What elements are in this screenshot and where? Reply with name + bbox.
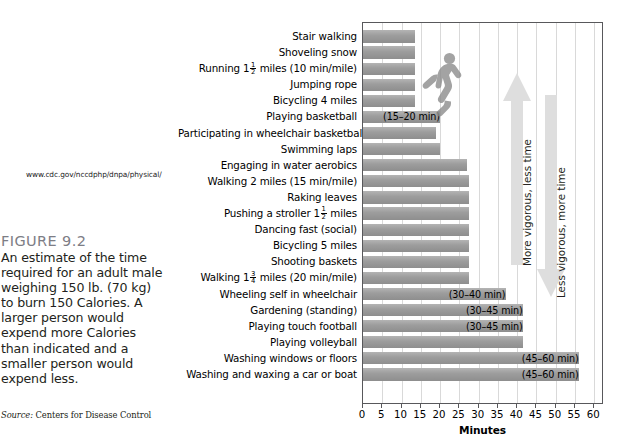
category-label: Playing basketball	[178, 108, 361, 124]
axis-tick-label: 45	[529, 409, 542, 420]
x-axis: 051015202530354045505560 Minutes	[362, 404, 603, 444]
bar-row	[363, 126, 602, 142]
source-text: Centers for Disease Control	[33, 410, 151, 420]
axis-tick-label: 20	[433, 409, 446, 420]
bar-value-note: (45–60 min)	[522, 352, 579, 365]
bar	[363, 79, 415, 91]
bar-value-note: (45–60 min)	[522, 368, 579, 381]
category-label: Walking 134 miles (20 min/mile)	[178, 269, 361, 285]
category-label: Wheeling self in wheelchair	[178, 286, 361, 302]
category-label: Dancing fast (social)	[178, 221, 361, 237]
plot-area: (15–20 min)(30–40 min)(30–45 min)(30–45 …	[362, 22, 603, 404]
bar-row: (15–20 min)	[363, 109, 602, 125]
category-label: Participating in wheelchair basketball	[178, 125, 361, 141]
cdc-url-text: www.cdc.gov/nccdphp/dnpa/physical/	[26, 170, 176, 179]
axis-tick	[478, 404, 479, 408]
axis-tick-label: 25	[452, 409, 465, 420]
bar	[363, 336, 523, 348]
category-label: Jumping rope	[178, 76, 361, 92]
bar-row: (30–45 min)	[363, 303, 602, 319]
bar-row	[363, 335, 602, 351]
bar-value-note: (30–40 min)	[449, 288, 506, 301]
axis-tick	[381, 404, 382, 408]
axis-tick	[535, 404, 536, 408]
axis-tick-label: 40	[510, 409, 523, 420]
axis-tick	[420, 404, 421, 408]
category-label: Washing and waxing a car or boat	[178, 366, 361, 382]
bar-row	[363, 45, 602, 61]
category-label: Washing windows or floors	[178, 350, 361, 366]
bar-value-note: (30–45 min)	[466, 304, 523, 317]
axis-tick	[555, 404, 556, 408]
category-label: Gardening (standing)	[178, 302, 361, 318]
axis-tick	[574, 404, 575, 408]
bar	[363, 127, 436, 139]
axis-tick-label: 5	[378, 409, 384, 420]
axis-tick	[362, 404, 363, 408]
category-label: Pushing a stroller 112 miles	[178, 205, 361, 221]
axis-tick-label: 15	[413, 409, 426, 420]
figure-number: FIGURE 9.2	[1, 233, 86, 249]
category-label: Playing touch football	[178, 318, 361, 334]
more-vigorous-label: More vigorous, less time	[521, 139, 533, 266]
category-label: Swimming laps	[178, 141, 361, 157]
category-label: Raking leaves	[178, 189, 361, 205]
figure-caption-column: www.cdc.gov/nccdphp/dnpa/physical/ FIGUR…	[0, 0, 178, 448]
bar-value-note: (30–45 min)	[466, 320, 523, 333]
axis-tick	[497, 404, 498, 408]
axis-tick-label: 30	[471, 409, 484, 420]
bar	[363, 191, 469, 203]
bar-row	[363, 61, 602, 77]
axis-tick-label: 50	[548, 409, 561, 420]
figure-source: Source: Centers for Disease Control	[1, 410, 177, 420]
running-person-icon	[420, 51, 468, 117]
category-label: Bicycling 5 miles	[178, 237, 361, 253]
source-label: Source:	[1, 410, 33, 420]
bar-row	[363, 93, 602, 109]
bar	[363, 95, 415, 107]
bar	[363, 207, 469, 219]
axis-tick-label: 60	[587, 409, 600, 420]
axis-tick	[516, 404, 517, 408]
bar-row	[363, 142, 602, 158]
bar	[363, 30, 415, 42]
bar	[363, 175, 469, 187]
axis-tick-label: 10	[394, 409, 407, 420]
category-label: Walking 2 miles (15 min/mile)	[178, 173, 361, 189]
category-label: Stair walking	[178, 28, 361, 44]
bar-row: (30–45 min)	[363, 319, 602, 335]
bar-row	[363, 29, 602, 45]
category-label: Playing volleyball	[178, 334, 361, 350]
axis-tick	[593, 404, 594, 408]
category-axis-labels: Stair walkingShoveling snowRunning 112 m…	[178, 28, 361, 382]
bar	[363, 46, 415, 58]
bar-row: (45–60 min)	[363, 351, 602, 367]
bar	[363, 143, 440, 155]
bar	[363, 224, 469, 236]
bar-row: (45–60 min)	[363, 367, 602, 383]
bar	[363, 159, 467, 171]
bar	[363, 240, 469, 252]
category-label: Engaging in water aerobics	[178, 157, 361, 173]
category-label: Bicycling 4 miles	[178, 92, 361, 108]
axis-tick-label: 35	[490, 409, 503, 420]
category-label: Running 112 miles (10 min/mile)	[178, 60, 361, 76]
axis-tick	[401, 404, 402, 408]
axis-tick	[439, 404, 440, 408]
category-label: Shooting baskets	[178, 253, 361, 269]
bar-chart: Stair walkingShoveling snowRunning 112 m…	[178, 22, 618, 442]
less-vigorous-label: Less vigorous, more time	[555, 167, 567, 298]
category-label: Shoveling snow	[178, 44, 361, 60]
bar	[363, 256, 469, 268]
bar	[363, 272, 469, 284]
bar-row	[363, 77, 602, 93]
axis-tick-label: 0	[359, 409, 365, 420]
bar	[363, 63, 415, 75]
axis-tick-label: 55	[568, 409, 581, 420]
figure-caption-text: An estimate of the time required for an …	[1, 250, 163, 386]
x-axis-title: Minutes	[362, 424, 603, 436]
axis-tick	[458, 404, 459, 408]
